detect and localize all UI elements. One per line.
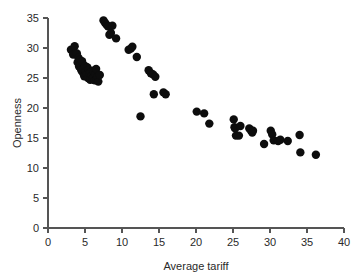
x-tick-label: 20 <box>190 236 202 248</box>
data-point <box>296 148 304 156</box>
data-point <box>205 119 213 127</box>
data-point <box>151 73 159 81</box>
x-axis-title: Average tariff <box>163 260 229 272</box>
y-tick-label: 15 <box>27 132 39 144</box>
y-tick-label: 5 <box>33 192 39 204</box>
data-point <box>136 112 144 120</box>
x-tick-label: 15 <box>153 236 165 248</box>
data-point <box>276 136 284 144</box>
data-point <box>295 131 303 139</box>
y-tick-label: 30 <box>27 42 39 54</box>
data-point <box>200 109 208 117</box>
data-point <box>108 22 116 30</box>
x-axis-ticks: 0510152025303540 <box>45 228 350 248</box>
x-tick-label: 35 <box>301 236 313 248</box>
x-tick-label: 0 <box>45 236 51 248</box>
y-tick-label: 35 <box>27 12 39 24</box>
data-point <box>249 127 257 135</box>
data-point <box>128 43 136 51</box>
x-tick-label: 25 <box>227 236 239 248</box>
data-point <box>284 137 292 145</box>
x-tick-label: 5 <box>82 236 88 248</box>
x-tick-label: 30 <box>264 236 276 248</box>
data-point <box>236 122 244 130</box>
data-point <box>312 151 320 159</box>
axes <box>48 18 344 228</box>
y-tick-label: 0 <box>33 222 39 234</box>
y-axis-ticks: 05101520253035 <box>27 12 48 234</box>
y-axis-title: Openness <box>11 97 23 148</box>
data-point <box>96 71 104 79</box>
x-tick-label: 40 <box>338 236 350 248</box>
data-point <box>150 90 158 98</box>
data-point <box>112 34 120 42</box>
y-tick-label: 25 <box>27 72 39 84</box>
data-point <box>70 42 78 50</box>
data-point <box>260 140 268 148</box>
data-point <box>161 90 169 98</box>
y-tick-label: 20 <box>27 102 39 114</box>
chart-canvas: 0510152025303540 05101520253035 Average … <box>0 0 356 280</box>
data-point <box>193 107 201 115</box>
data-point <box>230 115 238 123</box>
data-point <box>133 53 141 61</box>
scatter-chart: 0510152025303540 05101520253035 Average … <box>0 0 356 280</box>
data-points <box>67 16 320 159</box>
x-tick-label: 10 <box>116 236 128 248</box>
y-tick-label: 10 <box>27 162 39 174</box>
data-point <box>235 131 243 139</box>
